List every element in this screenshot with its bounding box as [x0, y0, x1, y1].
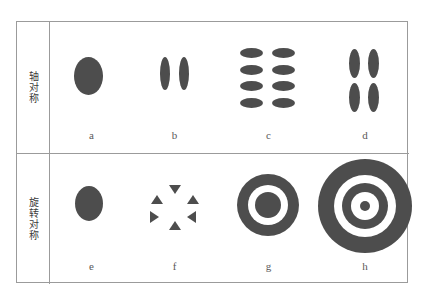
shape-c-grid-4x2-horizontal-ellipses [216, 34, 321, 120]
shape-g-concentric-rings-2 [216, 164, 321, 250]
cell-g: g [216, 154, 321, 284]
cell-label-e: e [50, 260, 133, 272]
row-category-axial: 轴对称 [17, 22, 49, 153]
ellipse [272, 48, 295, 58]
ellipse [272, 98, 295, 108]
cell-label-c: c [216, 129, 321, 141]
cell-b: b [133, 22, 216, 153]
ellipse [368, 83, 379, 112]
cell-f: f [133, 154, 216, 284]
cell-label-a: a [50, 129, 133, 141]
cell-label-f: f [133, 260, 216, 272]
cell-label-d: d [321, 129, 409, 141]
ellipse [240, 65, 263, 75]
triangle-up-icon [151, 195, 163, 204]
row-category-rotational: 旋转对称 [17, 154, 49, 284]
shape-d-grid-2x2-vertical-ellipses [321, 34, 409, 120]
triangle-right-icon [150, 211, 159, 223]
shape-a-single-ellipse [50, 40, 133, 126]
ellipse [160, 57, 170, 90]
ellipse [240, 48, 263, 58]
cell-label-h: h [321, 260, 409, 272]
circle [75, 186, 103, 221]
shape-b-two-vertical-ellipses [133, 40, 216, 126]
symmetry-figure: 轴对称 a b [0, 0, 425, 302]
triangle-down-icon [169, 185, 181, 194]
shape-e-single-circle [50, 168, 133, 254]
comparison-table: 轴对称 a b [16, 21, 408, 283]
ellipse [272, 65, 295, 75]
ellipse [240, 98, 263, 108]
triangle-up-icon [169, 221, 181, 230]
cell-label-g: g [216, 260, 321, 272]
ellipse [179, 57, 189, 90]
cell-c: c [216, 22, 321, 153]
shape-f-six-triangles-radial [133, 168, 216, 254]
ellipse [74, 57, 103, 95]
shape-h-concentric-rings-4 [321, 156, 409, 242]
cell-a: a [50, 22, 133, 153]
ellipse [368, 49, 379, 78]
cell-e: e [50, 154, 133, 284]
ellipse [272, 81, 295, 91]
cell-h: h [321, 154, 409, 284]
ring-center-dot [360, 201, 370, 211]
ellipse [349, 49, 360, 78]
ellipse [240, 81, 263, 91]
cell-d: d [321, 22, 409, 153]
row-category-axial-text: 轴对称 [27, 71, 40, 104]
cell-label-b: b [133, 129, 216, 141]
ring-center [255, 192, 281, 218]
row-category-rotational-text: 旋转对称 [27, 197, 40, 241]
triangle-left-icon [187, 211, 196, 223]
ellipse [349, 83, 360, 112]
triangle-up-icon [187, 195, 199, 204]
